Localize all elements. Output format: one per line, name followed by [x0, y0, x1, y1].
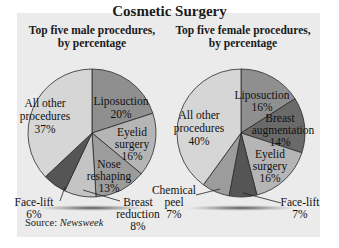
female-label-other-1: All other [178, 109, 219, 121]
male-label-breast-1: Breast [123, 196, 153, 208]
female-label-other-2: procedures [174, 122, 225, 135]
male-label-facelift: Face-lift [15, 196, 55, 208]
female-value-other: 40% [188, 135, 210, 147]
source-label: Source: [25, 217, 60, 228]
female-value-peel: 7% [166, 208, 182, 220]
male-value-eyelid: 16% [121, 150, 143, 162]
female-value-eyelid: 16% [259, 172, 281, 184]
male-value-nose: 13% [98, 182, 120, 194]
male-label-other-2: procedures [20, 110, 71, 123]
male-label-breast-2: reduction [116, 208, 160, 220]
female-label-facelift: Face-lift [281, 196, 321, 208]
male-value-liposuction: 20% [110, 108, 132, 120]
female-label-breast-1: Breast [265, 112, 295, 124]
male-label-nose-1: Nose [97, 158, 121, 170]
female-value-breast: 14% [269, 136, 291, 148]
male-label-other-1: All other [24, 97, 65, 109]
female-label-peel-1: Chemical [152, 184, 196, 196]
male-value-breast: 8% [130, 220, 146, 232]
male-value-other: 37% [34, 123, 56, 135]
pie-charts: Liposuction 20% Eyelid surgery 16% Nose … [0, 0, 339, 248]
source-note: Source: Newsweek [25, 217, 103, 228]
source-name: Newsweek [60, 217, 104, 228]
male-label-liposuction: Liposuction [94, 95, 149, 108]
female-value-facelift: 7% [292, 208, 308, 220]
